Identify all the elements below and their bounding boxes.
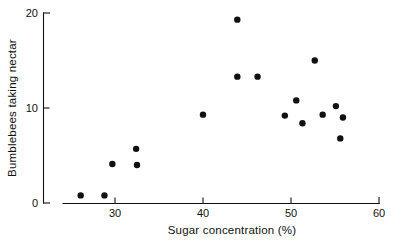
data-point [101,192,107,198]
x-tick-label-40: 40 [197,207,209,219]
data-points-layer [77,16,346,198]
y-tick-label-0: 0 [32,197,38,209]
data-point [254,73,260,79]
y-axis-title: Bumblebees taking nectar [6,39,18,177]
data-point [299,120,305,126]
x-axis-title: Sugar concentration (%) [168,224,297,236]
data-point [234,73,240,79]
y-axis [44,13,50,203]
data-point [133,146,139,152]
x-tick-label-50: 50 [285,207,297,219]
data-point [234,16,240,22]
scatter-plot-figure: 20 10 0 30 40 50 60 Sugar concentration … [0,0,406,243]
data-point [293,97,299,103]
data-point [319,111,325,117]
data-point [312,57,318,63]
data-point [77,192,83,198]
data-point [333,103,339,109]
data-point [340,114,346,120]
x-tick-label-30: 30 [109,207,121,219]
data-point [134,162,140,168]
data-point [282,112,288,118]
data-point [200,111,206,117]
x-tick-label-60: 60 [373,207,385,219]
plot-canvas: 20 10 0 30 40 50 60 Sugar concentration … [0,0,406,243]
x-axis [63,198,379,204]
data-point [337,135,343,141]
y-tick-label-20: 20 [26,7,38,19]
y-tick-label-10: 10 [26,102,38,114]
data-point [109,161,115,167]
